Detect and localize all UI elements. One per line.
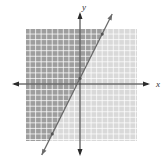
x-axis-label: x bbox=[155, 79, 160, 89]
x-axis-left-arrow-icon bbox=[12, 82, 19, 87]
inequality-graph: y x bbox=[0, 0, 166, 162]
x-axis-right-arrow-icon bbox=[143, 82, 150, 87]
grid-area bbox=[0, 0, 166, 162]
boundary-arrow-bottom-icon bbox=[42, 149, 47, 155]
y-axis-bottom-arrow-icon bbox=[78, 149, 83, 156]
line-point bbox=[51, 132, 54, 135]
y-axis-label: y bbox=[81, 2, 86, 12]
line-point bbox=[78, 77, 81, 80]
boundary-arrow-top-icon bbox=[107, 14, 112, 20]
line-point bbox=[101, 32, 104, 35]
y-axis-top-arrow-icon bbox=[78, 12, 83, 19]
